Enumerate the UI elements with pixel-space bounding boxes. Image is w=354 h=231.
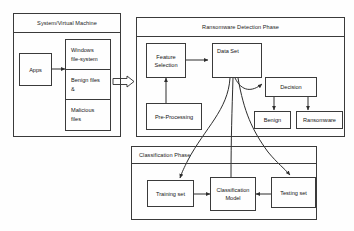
file-list-line: files	[71, 115, 110, 124]
node-line: Pre-Processing	[155, 113, 193, 121]
node-classification-model[interactable]: Classification Model	[210, 177, 256, 211]
file-list-group: Windows file-system Benign files & Malic…	[65, 39, 111, 131]
node-line: Selection	[154, 61, 177, 69]
node-line: Training set	[156, 190, 185, 198]
node-training-set[interactable]: Training set	[147, 180, 194, 207]
node-line: Data Set	[217, 47, 239, 55]
node-feature-selection[interactable]: Feature Selection	[146, 43, 186, 78]
file-list-line: Benign files	[71, 76, 110, 85]
node-apps[interactable]: Apps	[19, 53, 52, 86]
panel-detection-header: Ransomware Detection Phase	[137, 18, 344, 37]
node-benign[interactable]: Benign	[254, 111, 291, 129]
node-line: Classification	[217, 186, 250, 194]
node-testing-set[interactable]: Testing set	[271, 177, 316, 208]
node-data-set[interactable]: Data Set	[212, 43, 262, 78]
node-line: Benign	[264, 116, 281, 124]
panel-system-header: System/Virtual Machine	[14, 14, 120, 33]
file-list-line: file-system	[71, 55, 110, 64]
panel-classification-header: Classification Phase	[132, 147, 316, 164]
node-apps-label: Apps	[29, 66, 42, 74]
node-line: Ransomware	[303, 116, 336, 124]
node-decision[interactable]: Decision	[265, 77, 317, 97]
architecture-diagram: System/Virtual Machine Apps Windows file…	[0, 0, 354, 231]
file-list-item-windows-file-system[interactable]: Windows file-system	[66, 40, 110, 70]
file-list-line: Windows	[71, 46, 110, 55]
node-line: Model	[225, 194, 240, 202]
file-list-item-benign-files[interactable]: Benign files &	[66, 70, 110, 99]
node-line: Feature	[156, 53, 175, 61]
file-list-item-malicious-files[interactable]: Malicious files	[66, 100, 110, 130]
node-ransomware[interactable]: Ransomware	[296, 111, 343, 129]
node-line: Decision	[280, 83, 301, 91]
file-list-line: Malicious	[71, 106, 110, 115]
file-list-line: &	[71, 85, 110, 94]
node-line: Testing set	[280, 189, 307, 197]
node-pre-processing[interactable]: Pre-Processing	[146, 103, 202, 130]
